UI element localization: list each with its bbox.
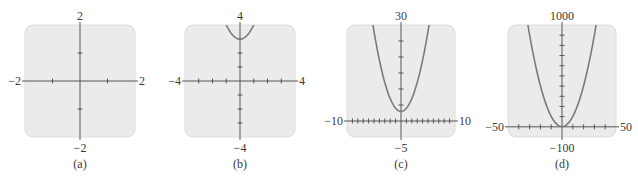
- panel-caption: (d): [555, 158, 569, 170]
- ymin-label: −100: [550, 142, 575, 154]
- ymax-label: 1000: [550, 10, 574, 22]
- xmax-label: 50: [620, 121, 632, 133]
- plot-area: [0, 0, 638, 181]
- xmin-label: −50: [485, 121, 504, 133]
